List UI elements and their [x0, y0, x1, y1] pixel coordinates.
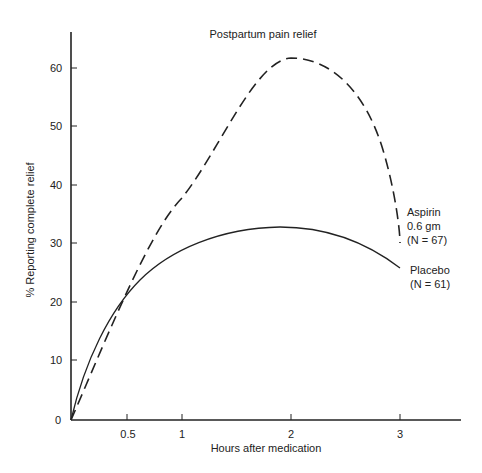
y-axis-label: % Reporting complete relief	[24, 161, 36, 297]
y-tick-label: 10	[50, 354, 62, 366]
x-ticks	[127, 414, 400, 420]
aspirin-n-label: (N = 67)	[407, 234, 447, 246]
placebo-label: Placebo	[410, 264, 450, 276]
aspirin-label: Aspirin	[407, 206, 441, 218]
chart-title: Postpartum pain relief	[210, 28, 318, 40]
chart: 0 10 20 30 40 50 60 0.5 1 2 3 Postpartum…	[0, 0, 482, 473]
x-tick-label: 2	[288, 428, 294, 440]
aspirin-dose-label: 0.6 gm	[407, 220, 441, 232]
x-tick-label: 3	[397, 428, 403, 440]
y-tick-label: 20	[50, 296, 62, 308]
y-tick-label: 60	[50, 62, 62, 74]
placebo-curve	[71, 227, 400, 420]
y-tick-label: 50	[50, 120, 62, 132]
y-tick-label: 40	[50, 179, 62, 191]
x-tick-label: 0.5	[120, 428, 135, 440]
x-tick-label: 1	[179, 428, 185, 440]
y-tick-label: 0	[55, 414, 61, 426]
y-ticks	[71, 68, 77, 360]
aspirin-curve	[71, 58, 400, 420]
x-axis-label: Hours after medication	[211, 442, 322, 454]
placebo-n-label: (N = 61)	[410, 278, 450, 290]
y-tick-label: 30	[50, 237, 62, 249]
